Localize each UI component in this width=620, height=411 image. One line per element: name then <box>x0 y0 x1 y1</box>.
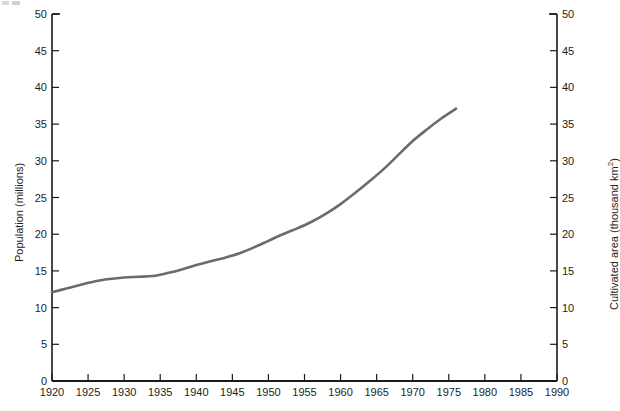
y-tick-label-right-30: 30 <box>562 155 574 166</box>
y-axis-title-left: Population (millions) <box>14 163 25 262</box>
y-tick-label-right-40: 40 <box>562 82 574 93</box>
x-tick-label-1930: 1930 <box>112 387 136 398</box>
x-tick-label-1950: 1950 <box>256 387 280 398</box>
y-tick-label-left-10: 10 <box>35 302 47 313</box>
x-tick-label-1990: 1990 <box>545 387 569 398</box>
y-tick-label-right-25: 25 <box>562 192 574 203</box>
y-axis-title-right: Cultivated area (thousand km2) <box>609 158 620 310</box>
y-tick-label-left-45: 45 <box>35 45 47 56</box>
y-tick-label-left-5: 5 <box>41 339 47 350</box>
x-tick-label-1920: 1920 <box>40 387 64 398</box>
x-tick-label-1975: 1975 <box>437 387 461 398</box>
y-tick-label-left-0: 0 <box>41 376 47 387</box>
y-tick-label-left-50: 50 <box>35 9 47 20</box>
x-tick-label-1945: 1945 <box>220 387 244 398</box>
y-tick-label-right-20: 20 <box>562 229 574 240</box>
y-tick-label-left-40: 40 <box>35 82 47 93</box>
y-tick-label-left-15: 15 <box>35 265 47 276</box>
y-tick-label-left-20: 20 <box>35 229 47 240</box>
scan-artifact <box>2 1 22 5</box>
x-tick-label-1925: 1925 <box>76 387 100 398</box>
x-tick-label-1965: 1965 <box>364 387 388 398</box>
y-tick-label-right-10: 10 <box>562 302 574 313</box>
x-tick-label-1940: 1940 <box>184 387 208 398</box>
x-tick-label-1960: 1960 <box>328 387 352 398</box>
y-tick-label-left-30: 30 <box>35 155 47 166</box>
y-tick-label-right-15: 15 <box>562 265 574 276</box>
y-tick-label-left-35: 35 <box>35 119 47 130</box>
y-axis-tick-marks-left <box>52 14 59 381</box>
x-tick-label-1935: 1935 <box>148 387 172 398</box>
y-tick-label-left-25: 25 <box>35 192 47 203</box>
y-tick-label-right-0: 0 <box>562 376 568 387</box>
y-tick-label-right-50: 50 <box>562 9 574 20</box>
x-tick-label-1985: 1985 <box>509 387 533 398</box>
x-tick-label-1970: 1970 <box>400 387 424 398</box>
x-tick-label-1955: 1955 <box>292 387 316 398</box>
x-axis-tick-marks <box>52 374 557 381</box>
y-tick-label-right-45: 45 <box>562 45 574 56</box>
y-tick-label-right-5: 5 <box>562 339 568 350</box>
y-axis-tick-marks-right <box>550 14 557 381</box>
y-axis-title-right-superscript: 2 <box>606 162 615 166</box>
y-tick-label-right-35: 35 <box>562 119 574 130</box>
y-axis-title-right-text: Cultivated area (thousand km <box>608 166 620 310</box>
y-axis-title-right-tail: ) <box>608 158 620 162</box>
x-tick-label-1980: 1980 <box>473 387 497 398</box>
data-series-line <box>52 109 456 293</box>
